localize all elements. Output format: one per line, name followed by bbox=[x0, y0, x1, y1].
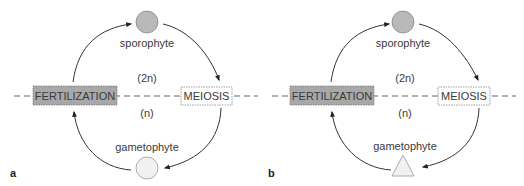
arrow-fertilization-to-sporophyte bbox=[73, 24, 131, 82]
panel-letter-b: b bbox=[268, 167, 275, 179]
haploid-label: (n) bbox=[140, 107, 153, 119]
haploid-label: (n) bbox=[398, 107, 411, 119]
meiosis-label: MEIOSIS bbox=[441, 90, 487, 102]
arrow-meiosis-to-gametophyte bbox=[165, 108, 221, 168]
sporophyte-circle-icon bbox=[136, 11, 158, 33]
arrow-sporophyte-to-meiosis bbox=[163, 24, 219, 80]
arrow-fertilization-to-sporophyte bbox=[331, 24, 389, 82]
sporophyte-label: sporophyte bbox=[120, 37, 174, 49]
fertilization-label: FERTILIZATION bbox=[292, 90, 372, 102]
panel-letter-a: a bbox=[10, 167, 17, 179]
fertilization-label: FERTILIZATION bbox=[35, 90, 115, 102]
sporophyte-label: sporophyte bbox=[376, 37, 430, 49]
life-cycle-diagram: sporophyte (2n) (n) FERTILIZATION MEIOSI… bbox=[0, 0, 524, 186]
diploid-label: (2n) bbox=[395, 72, 415, 84]
diploid-label: (2n) bbox=[137, 72, 157, 84]
gametophyte-circle-icon bbox=[136, 157, 158, 179]
sporophyte-circle-icon bbox=[392, 11, 414, 33]
gametophyte-label: gametophyte bbox=[115, 141, 179, 153]
gametophyte-label: gametophyte bbox=[373, 140, 437, 152]
arrow-meiosis-to-gametophyte bbox=[423, 108, 479, 167]
gametophyte-triangle-icon bbox=[392, 155, 414, 176]
arrow-sporophyte-to-meiosis bbox=[419, 24, 478, 80]
panel-b: sporophyte (2n) (n) FERTILIZATION MEIOSI… bbox=[268, 11, 516, 179]
panel-a: sporophyte (2n) (n) FERTILIZATION MEIOSI… bbox=[10, 11, 258, 179]
meiosis-label: MEIOSIS bbox=[184, 90, 230, 102]
